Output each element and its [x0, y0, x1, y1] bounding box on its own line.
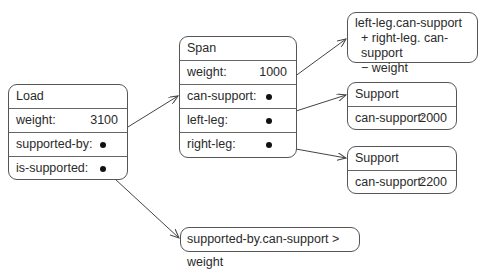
load-is-supported-row: is-supported: — [9, 156, 127, 180]
formula-line-3: − weight — [355, 61, 477, 76]
load-title: Load — [16, 85, 44, 108]
pointer-dot-icon — [100, 142, 106, 148]
pointer-dot-icon — [266, 142, 272, 148]
support-left-can-support-label: can-support: — [355, 107, 424, 130]
span-can-support-row: can-support: — [180, 84, 296, 108]
support-right-title: Support — [355, 147, 399, 170]
load-weight-label: weight: — [16, 109, 56, 132]
support-left-can-support-value: 2000 — [419, 107, 447, 130]
span-weight-value: 1000 — [259, 61, 287, 84]
span-right-leg-row: right-leg: — [180, 132, 296, 156]
support-left-title: Support — [355, 83, 399, 106]
is-supported-formula: supported-by.can-support > weight — [180, 227, 360, 252]
support-left-title-row: Support — [348, 83, 456, 107]
formula-line-1: left-leg.can-support — [355, 16, 477, 31]
span-left-leg-row: left-leg: — [180, 108, 296, 132]
span-title-row: Span — [180, 37, 296, 61]
pointer-dot-icon — [266, 94, 272, 100]
span-weight-row: weight: 1000 — [180, 60, 296, 84]
pointer-dot-icon — [100, 166, 106, 172]
load-is-supported-label: is-supported: — [16, 157, 88, 180]
span-left-leg-label: left-leg: — [187, 109, 228, 132]
support-left-frame: Support can-support: 2000 — [347, 82, 457, 130]
load-supported-by-row: supported-by: — [9, 132, 127, 156]
is-supported-formula-text: supported-by.can-support > weight — [187, 232, 339, 269]
support-right-frame: Support can-support: 2200 — [347, 146, 457, 194]
span-frame: Span weight: 1000 can-support: left-leg:… — [179, 36, 297, 158]
pointer-dot-icon — [266, 118, 272, 124]
load-weight-row: weight: 3100 — [9, 108, 127, 132]
span-can-support-label: can-support: — [187, 85, 256, 108]
support-right-can-support-label: can-support: — [355, 171, 424, 194]
span-right-leg-label: right-leg: — [187, 133, 236, 156]
formula-line-2: + right-leg. can-support — [355, 31, 477, 61]
span-title: Span — [187, 37, 216, 60]
load-supported-by-label: supported-by: — [16, 133, 92, 156]
support-right-can-support-value: 2200 — [419, 171, 447, 194]
support-right-can-support-row: can-support: 2200 — [348, 170, 456, 194]
support-right-title-row: Support — [348, 147, 456, 171]
span-weight-label: weight: — [187, 61, 227, 84]
load-title-row: Load — [9, 85, 127, 109]
can-support-formula: left-leg.can-support + right-leg. can-su… — [347, 12, 478, 63]
support-left-can-support-row: can-support: 2000 — [348, 106, 456, 130]
load-frame: Load weight: 3100 supported-by: is-suppo… — [8, 84, 128, 180]
load-weight-value: 3100 — [90, 109, 118, 132]
